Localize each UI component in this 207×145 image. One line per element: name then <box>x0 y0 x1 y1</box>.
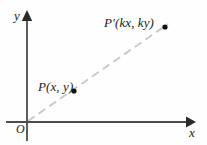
point-p-prime-label: P′(kx, ky) <box>104 16 154 29</box>
x-axis-label: x <box>189 126 195 139</box>
dilation-ray <box>28 24 168 121</box>
dilation-figure: y x O P(x, y) P′(kx, ky) <box>0 0 207 145</box>
origin-label: O <box>16 123 25 135</box>
y-axis-arrowhead-icon <box>22 10 32 21</box>
y-axis-label: y <box>14 9 20 22</box>
point-p-label: P(x, y) <box>38 80 73 93</box>
point-p-prime-dot <box>162 24 167 29</box>
